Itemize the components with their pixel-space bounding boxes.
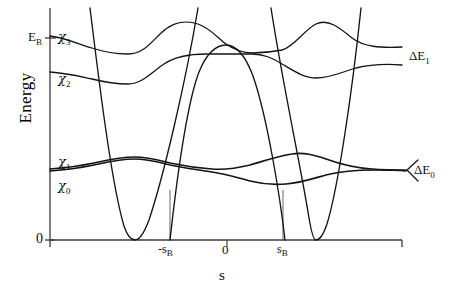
sb-subscript: B (282, 248, 288, 258)
chi1-symbol: χ (58, 154, 66, 169)
lower-band-group (50, 153, 406, 184)
chi1-subscript: 1 (66, 162, 71, 172)
x-tick-label-minus-sb: -sB (158, 243, 173, 258)
delta-e0-subscript: 0 (430, 170, 435, 180)
curve-label-delta-e1: ΔE1 (409, 49, 430, 66)
curve-label-chi3: χ3 (58, 30, 70, 47)
curve-label-chi0: χ0 (58, 179, 70, 196)
x-axis-label: s (219, 268, 225, 283)
chi3-symbol: χ (58, 29, 66, 44)
left-potential-well (90, 8, 198, 240)
delta-e1-subscript: 1 (425, 56, 430, 66)
y-tick-label-eb: EB (28, 30, 42, 47)
chi3-subscript: 3 (66, 37, 71, 47)
energy-band-figure: Energy 0 EB χ3 χ2 χ1 χ0 ΔE1 ΔE0 -sB 0 sB… (0, 0, 453, 294)
gridlines-group (170, 190, 283, 240)
y-axis-label: Energy (16, 58, 36, 138)
central-barrier (170, 45, 285, 240)
axes-group (45, 8, 402, 247)
curve-label-delta-e0: ΔE0 (414, 163, 435, 180)
curve-chi3 (50, 22, 402, 54)
eb-symbol: E (28, 29, 36, 44)
curve-chi2 (50, 54, 402, 84)
curve-chi1 (50, 153, 406, 170)
right-potential-well (271, 8, 361, 240)
chi2-subscript: 2 (66, 79, 71, 89)
eb-subscript: B (36, 37, 42, 47)
minus-sb-subscript: B (167, 248, 173, 258)
curve-label-chi1: χ1 (58, 155, 70, 172)
x-tick-label-zero: 0 (222, 243, 229, 256)
chi0-subscript: 0 (66, 186, 71, 196)
curve-chi0 (50, 159, 406, 184)
curve-label-chi2: χ2 (58, 72, 70, 89)
delta-e1-symbol: ΔE (409, 48, 425, 63)
minus-sb-symbol: -s (158, 242, 167, 256)
delta-e0-symbol: ΔE (414, 162, 430, 177)
x-tick-label-sb: sB (277, 243, 288, 258)
chi2-symbol: χ (58, 71, 66, 86)
y-tick-label-zero: 0 (36, 232, 43, 246)
upper-band-group (50, 22, 402, 84)
chi0-symbol: χ (58, 178, 66, 193)
